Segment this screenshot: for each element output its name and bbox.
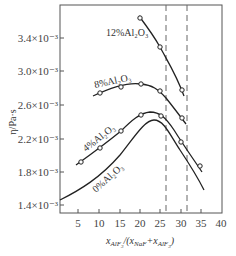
svg-text:30: 30 [176,217,188,229]
y-axis [60,38,64,205]
svg-text:2.2×10⁻³: 2.2×10⁻³ [18,133,59,145]
curve-8pct [93,84,186,124]
svg-text:1.4×10⁻³: 1.4×10⁻³ [18,199,59,211]
svg-text:2.6×10⁻³: 2.6×10⁻³ [18,99,59,111]
svg-text:3.4×10⁻³: 3.4×10⁻³ [18,32,59,44]
svg-text:1.8×10⁻³: 1.8×10⁻³ [18,166,59,178]
svg-text:5: 5 [75,217,81,229]
svg-text:10: 10 [94,217,106,229]
svg-text:40: 40 [216,217,228,229]
svg-text:25: 25 [155,217,167,229]
y-axis-label: η/Pa·s [7,109,18,134]
x-tick-labels: 5 10 15 20 25 30 35 40 [75,217,227,229]
y-tick-labels: 3.4×10⁻³ 3.0×10⁻³ 2.6×10⁻³ 2.2×10⁻³ 1.8×… [18,32,59,211]
svg-text:20: 20 [135,217,147,229]
svg-text:15: 15 [115,217,127,229]
label-8pct: 8%Al₂O₃ [93,71,132,90]
label-12pct: 12%Al₂O₃ [106,27,149,38]
chart: 3.4×10⁻³ 3.0×10⁻³ 2.6×10⁻³ 2.2×10⁻³ 1.8×… [0,0,236,256]
x-axis [78,209,201,213]
svg-text:3.0×10⁻³: 3.0×10⁻³ [18,65,59,77]
x-axis-label: xAlF3/(xNaF+xAlF3) [105,235,175,249]
svg-text:35: 35 [196,217,208,229]
